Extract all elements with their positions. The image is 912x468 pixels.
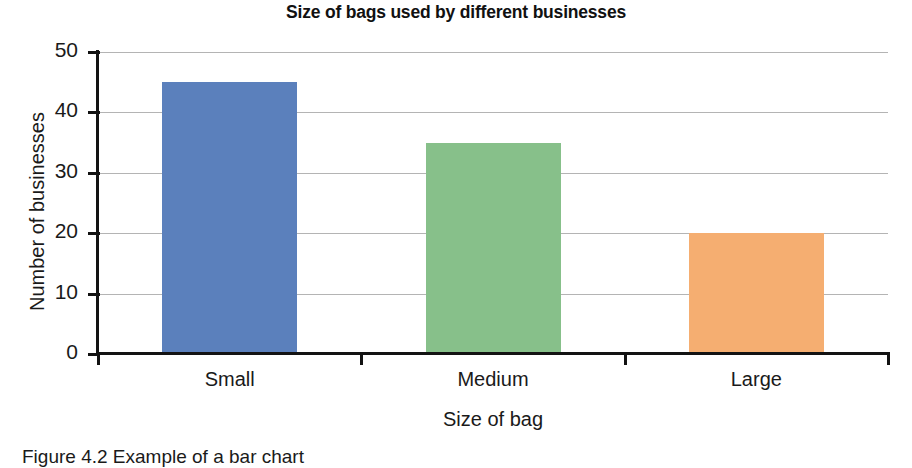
figure-caption: Figure 4.2 Example of a bar chart: [22, 446, 304, 468]
y-axis-title: Number of businesses: [26, 62, 49, 362]
x-axis-tick-label-medium: Medium: [373, 368, 613, 391]
y-axis-tick: [88, 111, 100, 114]
y-axis-tick: [88, 51, 100, 54]
bar-medium: [426, 143, 561, 354]
bar-small: [162, 82, 297, 354]
x-axis-tick-label-large: Large: [636, 368, 876, 391]
y-axis-tick: [88, 172, 100, 175]
plot-area: [98, 52, 888, 354]
x-axis-tick: [624, 352, 627, 365]
x-axis-title: Size of bag: [98, 408, 888, 431]
chart-title: Size of bags used by different businesse…: [0, 2, 912, 23]
y-axis-line: [96, 50, 99, 356]
y-axis-tick: [88, 232, 100, 235]
x-axis-tick: [97, 352, 100, 365]
x-axis-tick: [360, 352, 363, 365]
x-axis-tick-label-small: Small: [110, 368, 350, 391]
y-axis-tick: [88, 293, 100, 296]
x-axis-line: [96, 352, 888, 355]
bar-large: [689, 233, 824, 354]
gridline: [98, 52, 888, 53]
x-axis-tick: [887, 352, 890, 365]
y-axis-tick-label: 50: [8, 38, 78, 62]
